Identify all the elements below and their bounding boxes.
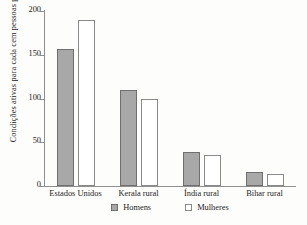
y-axis-title: Condições ativas para cada cem pessoas p… bbox=[9, 0, 23, 149]
bar-homens-bihar-rural bbox=[246, 172, 263, 186]
legend-item-homens: Homens bbox=[111, 203, 151, 212]
x-axis-line bbox=[44, 186, 296, 187]
bar-mulheres-kerala-rural bbox=[141, 99, 158, 187]
x-category-label: Índia rural bbox=[184, 189, 219, 198]
y-axis-line bbox=[44, 10, 45, 186]
open-square-icon bbox=[185, 204, 192, 211]
legend-item-mulheres: Mulheres bbox=[185, 203, 229, 212]
y-tick-label: 0 bbox=[37, 180, 41, 189]
bar-homens-índia-rural bbox=[183, 152, 200, 186]
x-category-label: Bihar rural bbox=[246, 189, 283, 198]
legend-label-mulheres: Mulheres bbox=[197, 203, 229, 212]
y-tick-label: 200 bbox=[28, 5, 41, 14]
legend-label-homens: Homens bbox=[123, 203, 151, 212]
y-tick-label: 50 bbox=[33, 136, 41, 145]
bar-mulheres-bihar-rural bbox=[267, 174, 284, 186]
bar-mulheres-estados-unidos bbox=[78, 20, 95, 186]
y-tick-label: 150 bbox=[28, 49, 41, 58]
bar-homens-estados-unidos bbox=[57, 49, 74, 186]
plot-area: 050100150200 Estados UnidosKerala ruralÍ… bbox=[44, 11, 296, 186]
x-category-label: Estados Unidos bbox=[49, 189, 101, 198]
bar-mulheres-índia-rural bbox=[204, 155, 221, 186]
bar-homens-kerala-rural bbox=[120, 90, 137, 186]
filled-square-icon bbox=[111, 204, 118, 211]
bar-chart-figure: Condições ativas para cada cem pessoas p… bbox=[0, 0, 307, 225]
x-category-label: Kerala rural bbox=[118, 189, 158, 198]
chart-legend: Homens Mulheres bbox=[44, 200, 296, 214]
y-tick-label: 100 bbox=[28, 93, 41, 102]
